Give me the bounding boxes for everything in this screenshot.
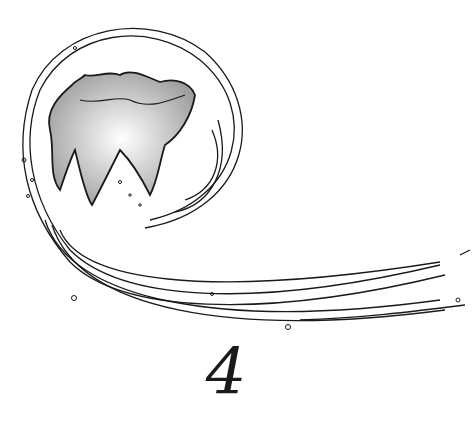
- page-number: 4: [196, 340, 256, 404]
- tooth-icon: [49, 72, 195, 205]
